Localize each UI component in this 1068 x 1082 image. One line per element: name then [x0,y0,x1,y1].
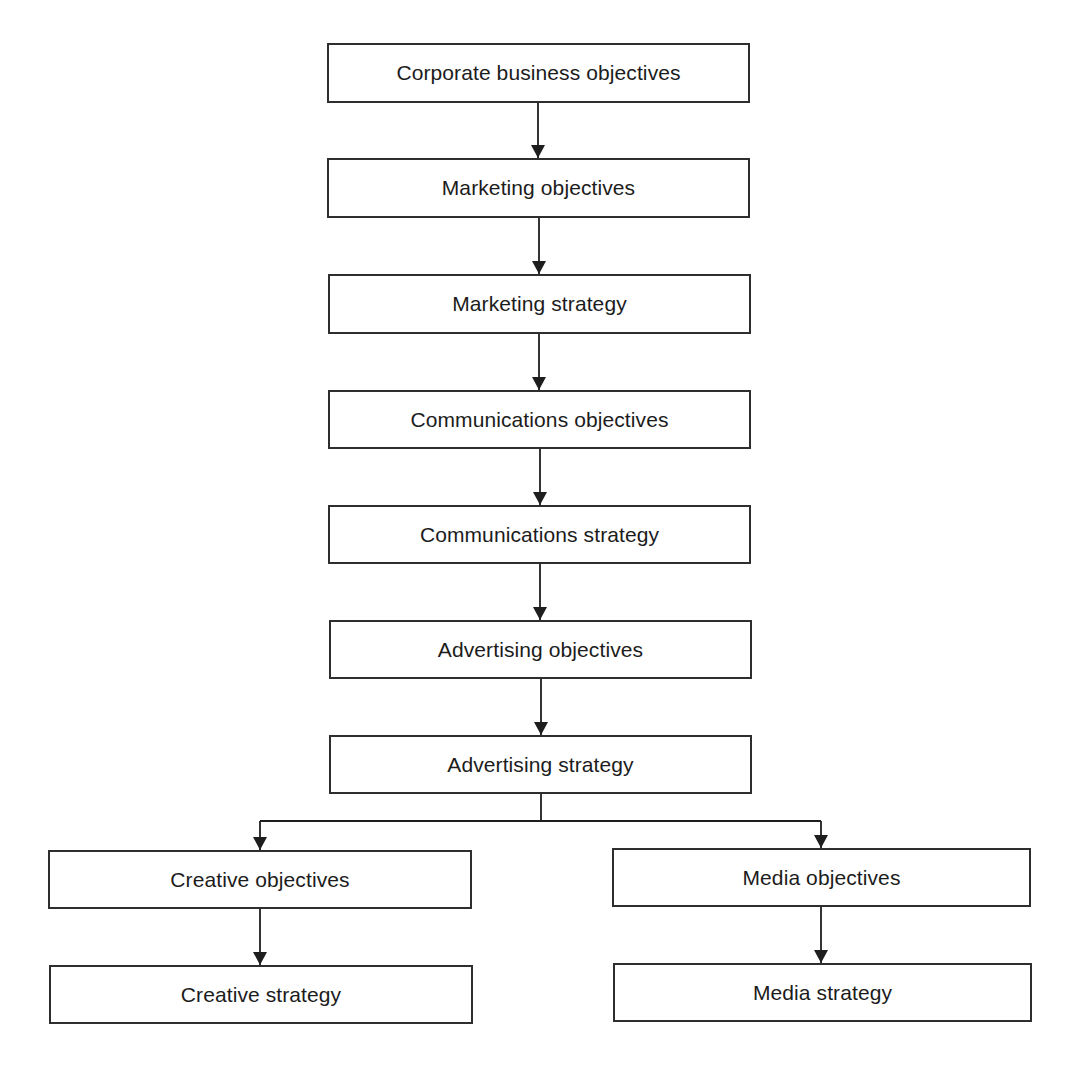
node-label: Marketing objectives [442,176,635,200]
node-creative-objectives: Creative objectives [48,850,472,909]
node-label: Marketing strategy [452,292,627,316]
node-label: Corporate business objectives [396,61,680,85]
node-communications-objectives: Communications objectives [328,390,751,449]
arrowhead-icon [814,835,828,848]
node-label: Communications strategy [420,523,659,547]
arrowhead-icon [534,722,548,735]
node-communications-strategy: Communications strategy [328,505,751,564]
node-label: Media objectives [742,866,900,890]
arrowhead-icon [532,261,546,274]
node-label: Advertising objectives [438,638,643,662]
node-label: Creative strategy [181,983,341,1007]
node-media-strategy: Media strategy [613,963,1032,1022]
arrowhead-icon [533,607,547,620]
node-advertising-strategy: Advertising strategy [329,735,752,794]
node-advertising-objectives: Advertising objectives [329,620,752,679]
node-corporate-business-objectives: Corporate business objectives [327,43,750,103]
arrowhead-icon [532,377,546,390]
arrowhead-icon [814,950,828,963]
arrowhead-icon [533,492,547,505]
arrowhead-icon [253,837,267,850]
node-marketing-strategy: Marketing strategy [328,274,751,334]
node-label: Media strategy [753,981,892,1005]
arrowhead-icon [253,952,267,965]
node-creative-strategy: Creative strategy [49,965,473,1024]
node-label: Advertising strategy [447,753,633,777]
arrowhead-icon [531,145,545,158]
node-media-objectives: Media objectives [612,848,1031,907]
node-marketing-objectives: Marketing objectives [327,158,750,218]
node-label: Creative objectives [170,868,349,892]
node-label: Communications objectives [410,408,668,432]
